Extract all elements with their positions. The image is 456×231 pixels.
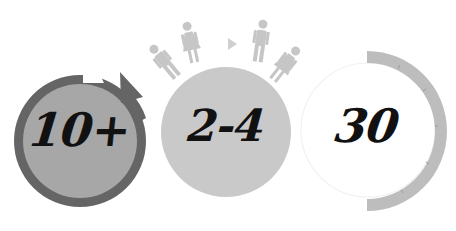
woman-icon [266, 42, 306, 86]
value-10-plus: 10+ [17, 103, 143, 157]
man-icon [250, 19, 272, 63]
value-30: 30 [308, 99, 426, 153]
ring-gap [82, 75, 104, 83]
woman-icon [177, 20, 203, 64]
man-icon [145, 41, 183, 82]
infographic: 10+ 2-4 30 [0, 0, 456, 231]
arrow-icon [228, 38, 237, 50]
value-2-4: 2-4 [164, 100, 288, 151]
